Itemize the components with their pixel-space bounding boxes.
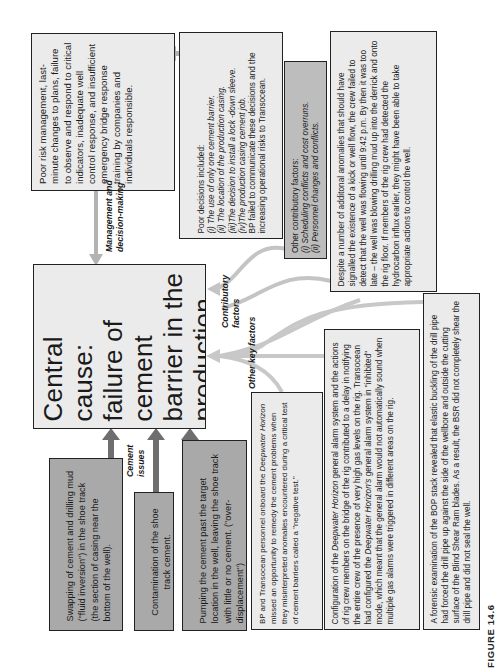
figure-label: FIGURE 14.6 xyxy=(485,604,496,668)
poor-decision-item-4: (iv)The production casing cement job. xyxy=(238,38,248,233)
pumping-box: Pumping the cement past the target locat… xyxy=(182,440,247,631)
poor-decisions-footer: BP failed to communicate these decisions… xyxy=(248,38,268,233)
poor-decision-item-1: (i) The use of only one cement barrier. xyxy=(207,38,217,233)
poor-decisions-heading: Poor decisions included: xyxy=(197,38,207,233)
negative-test-rig-name: Deepwater Horizon xyxy=(258,404,267,472)
bop-box: A forensic examination of the BOP stack … xyxy=(423,293,480,630)
contributory-label-text: Contributory factors xyxy=(220,275,241,328)
pumping-text: Pumping the cement past the target locat… xyxy=(196,448,245,623)
cement-issues-label-text: Cement issues xyxy=(125,445,146,477)
alarm-config-box: Configuration of the Deepwater Horizon g… xyxy=(324,329,420,630)
alarm-config-text: Configuration of the Deepwater Horizon g… xyxy=(330,335,396,624)
other-contributory-heading: Other contributory factors: xyxy=(290,67,300,253)
poor-decision-item-3: (iii)The decision to install a lock -dow… xyxy=(228,38,238,233)
negative-test-pre: BP and Transocean personnel onboard the xyxy=(258,471,267,624)
management-label-text: Management and decision-making xyxy=(104,180,125,252)
poor-decisions-box: Poor decisions included: (i) The use of … xyxy=(179,32,283,239)
contamination-text: Contamination of the shoe track cement. xyxy=(149,500,173,623)
central-cause-text: Central cause: failure of cement barrier… xyxy=(37,272,206,421)
contributory-arrowhead xyxy=(207,282,220,296)
alarm-rig-name-2: Deepwater Horizon's xyxy=(364,478,373,554)
other-contributory-item-1: (i) Scheduling conflicts and cost overru… xyxy=(300,67,310,253)
cement-issues-label: Cement issues xyxy=(125,437,146,477)
central-cause-box: Central cause: failure of cement barrier… xyxy=(33,264,206,429)
bop-text: A forensic examination of the BOP stack … xyxy=(428,300,472,623)
poor-decision-item-2: (ii) The location of the production casi… xyxy=(217,38,227,233)
contributory-label: Contributory factors xyxy=(220,266,241,328)
management-label: Management and decision-making xyxy=(104,160,125,252)
other-key-arrowhead xyxy=(206,349,220,363)
contamination-box: Contamination of the shoe track cement. xyxy=(134,492,174,631)
alarm-rig-name-1: Deepwater Horizon xyxy=(331,480,340,550)
negative-test-post: missed an opportunity to remedy the ceme… xyxy=(269,403,300,625)
negative-test-text: BP and Transocean personnel onboard the … xyxy=(257,398,301,624)
anomalies-text: Despite a number of additonal anomalies … xyxy=(335,37,412,286)
swapping-box: Swapping of cement and drilling mud ("fl… xyxy=(49,458,123,631)
figure-label-text: FIGURE 14.6 xyxy=(485,604,496,668)
other-key-label-text: Other key factors xyxy=(247,317,257,389)
other-contributory-box: Other contributory factors: (i) Scheduli… xyxy=(284,61,327,259)
other-key-factors-label: Other key factors xyxy=(247,317,258,389)
alarm-p1: Configuration of the xyxy=(331,550,340,624)
management-arrow xyxy=(89,190,103,266)
other-contributory-item-2: (ii) Personnel changes and conflicts. xyxy=(310,67,320,253)
negative-test-box: BP and Transocean personnel onboard the … xyxy=(251,392,323,630)
anomalies-box: Despite a number of additonal anomalies … xyxy=(330,31,437,292)
swapping-text: Swapping of cement and drilling mud ("fl… xyxy=(64,468,113,621)
management-summary-box: Poor risk management, last-minute change… xyxy=(31,33,175,191)
